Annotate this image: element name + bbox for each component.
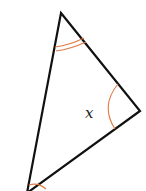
triangle-diagram: x	[0, 0, 146, 191]
angle-mark-top-outer	[55, 38, 84, 47]
triangle	[27, 13, 140, 191]
angle-label-x: x	[85, 104, 94, 122]
angle-mark-right	[108, 84, 118, 129]
